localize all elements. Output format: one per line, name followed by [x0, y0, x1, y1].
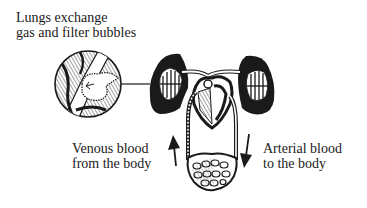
body-capillary-bed-icon — [188, 154, 237, 191]
left-lung-icon — [150, 54, 189, 114]
right-lung-icon — [238, 56, 274, 115]
circulation-diagram — [0, 0, 367, 208]
venous-up-arrow-icon — [168, 135, 180, 166]
pulmonary-vessels-icon — [182, 72, 240, 77]
arterial-down-arrow-icon — [240, 134, 252, 168]
heart-icon — [193, 77, 232, 128]
alveolus-magnifier-icon — [55, 48, 150, 124]
